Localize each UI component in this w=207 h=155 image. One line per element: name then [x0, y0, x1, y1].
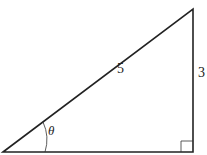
right-angle-marker [181, 141, 193, 152]
triangle [3, 9, 193, 152]
triangle-figure [0, 0, 207, 155]
angle-arc [43, 122, 47, 152]
hypotenuse-label: 5 [117, 62, 124, 76]
opposite-side-label: 3 [198, 66, 205, 80]
angle-theta-label: θ [48, 124, 54, 138]
